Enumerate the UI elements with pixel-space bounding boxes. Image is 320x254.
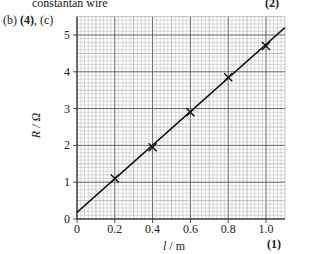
x-tick-label: 0.8: [221, 222, 236, 236]
y-tick-label: 4: [64, 65, 70, 79]
best-fit-line: [77, 28, 285, 213]
x-tick-label: 0.4: [145, 222, 160, 236]
x-axis-unit: / m: [166, 239, 185, 253]
marks-label-bottom: (1): [267, 238, 281, 250]
y-axis-label: R / Ω: [29, 113, 44, 138]
x-axis-label: l / m: [163, 239, 185, 254]
y-tick-label: 5: [64, 28, 70, 42]
y-tick-label: 0: [64, 212, 70, 226]
y-tick-label: 2: [64, 138, 70, 152]
x-tick-label: 0.6: [183, 222, 198, 236]
x-tick-label: 0.2: [107, 222, 122, 236]
x-tick-label: 0: [74, 222, 80, 236]
y-tick-label: 1: [64, 175, 70, 189]
y-tick-label: 3: [64, 102, 70, 116]
x-tick-label: 1.0: [259, 222, 274, 236]
